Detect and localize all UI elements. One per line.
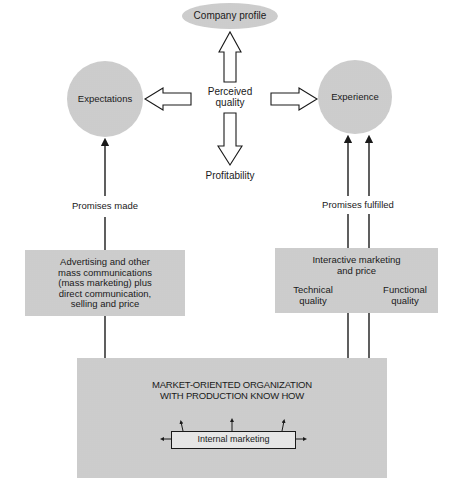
internal-marketing-arrows — [0, 0, 460, 500]
